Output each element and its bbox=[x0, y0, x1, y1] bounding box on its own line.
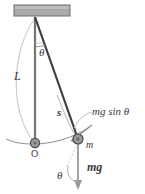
label-theta-top: θ bbox=[39, 47, 44, 58]
leader-line bbox=[74, 112, 92, 128]
label-mg-sin-theta: mg sin θ bbox=[92, 106, 129, 117]
rod-extension-dashed bbox=[66, 143, 78, 168]
label-theta-bottom: θ bbox=[57, 170, 62, 181]
diagram-canvas bbox=[0, 0, 145, 194]
label-length-L: L bbox=[14, 70, 21, 82]
origin-marker bbox=[30, 138, 39, 147]
label-mass-m: m bbox=[86, 140, 93, 150]
label-origin-O: O bbox=[31, 149, 38, 159]
pendulum-diagram: θ L s mg sin θ m O mg θ bbox=[0, 0, 145, 194]
label-arc-length-s: s bbox=[57, 107, 61, 118]
pendulum-rod bbox=[35, 17, 78, 139]
angle-arc-bottom bbox=[68, 166, 78, 182]
label-weight-mg: mg bbox=[87, 161, 102, 173]
weight-arrow bbox=[74, 141, 82, 190]
ceiling-support bbox=[14, 5, 70, 16]
pendulum-bob bbox=[73, 134, 83, 144]
